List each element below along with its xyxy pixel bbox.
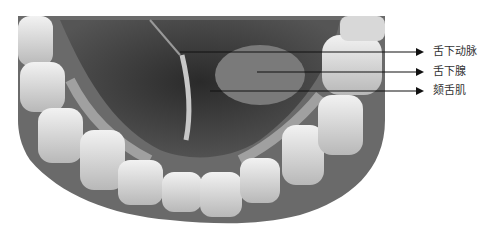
arrowhead-icon — [416, 68, 424, 76]
label-genioglossus: 颏舌肌 — [433, 85, 466, 97]
label-sublingual-gland: 舌下腺 — [433, 66, 466, 78]
anatomy-photo — [0, 0, 493, 234]
arrowhead-icon — [416, 48, 424, 56]
arrowhead-icon — [416, 87, 424, 95]
label-sublingual-artery: 舌下动脉 — [433, 46, 477, 58]
